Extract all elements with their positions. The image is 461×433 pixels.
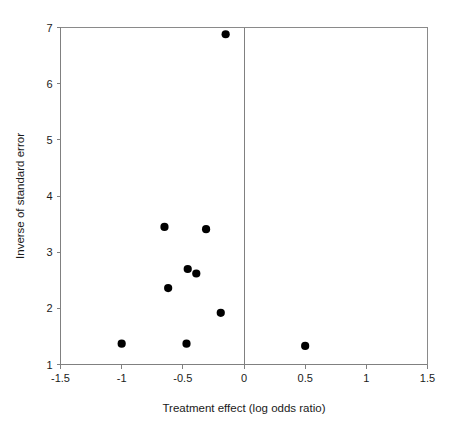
- data-point: [118, 340, 126, 348]
- y-tick-label: 7: [46, 22, 52, 34]
- x-tick-label: 1: [363, 372, 369, 384]
- x-axis-title: Treatment effect (log odds ratio): [163, 402, 326, 414]
- y-tick-label: 6: [46, 78, 52, 90]
- x-tick-label: -1.5: [51, 372, 70, 384]
- y-tick-label: 2: [46, 302, 52, 314]
- y-tick-label: 4: [46, 190, 52, 202]
- x-tick-label: 0: [241, 372, 247, 384]
- funnel-plot-svg: -1.5-1-0.500.511.51234567Treatment effec…: [0, 0, 461, 433]
- data-point: [222, 30, 230, 38]
- data-points-group: [118, 30, 310, 350]
- x-tick-label: 0.5: [298, 372, 313, 384]
- data-point: [164, 284, 172, 292]
- axis-labels-group: -1.5-1-0.500.511.51234567Treatment effec…: [14, 22, 435, 414]
- data-point: [301, 342, 309, 350]
- x-tick-label: 1.5: [420, 372, 435, 384]
- data-point: [192, 269, 200, 277]
- y-tick-label: 3: [46, 246, 52, 258]
- x-tick-label: -0.5: [173, 372, 192, 384]
- data-point: [184, 265, 192, 273]
- data-point: [217, 309, 225, 317]
- y-tick-label: 1: [46, 359, 52, 371]
- axes-group: [57, 28, 428, 369]
- y-tick-label: 5: [46, 134, 52, 146]
- funnel-plot-figure: -1.5-1-0.500.511.51234567Treatment effec…: [0, 0, 461, 433]
- data-point: [202, 225, 210, 233]
- x-tick-label: -1: [117, 372, 127, 384]
- data-point: [182, 340, 190, 348]
- y-axis-title: Inverse of standard error: [14, 133, 26, 259]
- data-point: [160, 223, 168, 231]
